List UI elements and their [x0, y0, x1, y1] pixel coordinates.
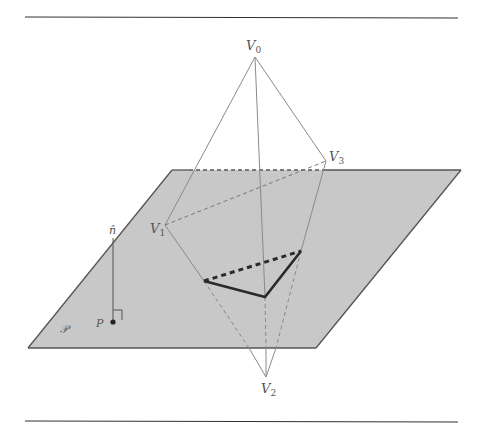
label-point-p: P	[95, 317, 104, 330]
point-p-dot	[110, 319, 115, 324]
tetra-edges-lower-solid	[249, 348, 276, 377]
label-v3: V3	[329, 149, 344, 166]
top-rule	[25, 17, 458, 18]
bottom-rule	[25, 421, 458, 422]
label-v0: V0	[246, 38, 261, 55]
label-normal: n̂	[109, 224, 116, 237]
tetrahedron-plane-figure: V0 V1 V2 V3 n̂ P 𝒫	[0, 0, 484, 430]
plane-p	[28, 170, 461, 348]
label-v2: V2	[261, 381, 276, 398]
